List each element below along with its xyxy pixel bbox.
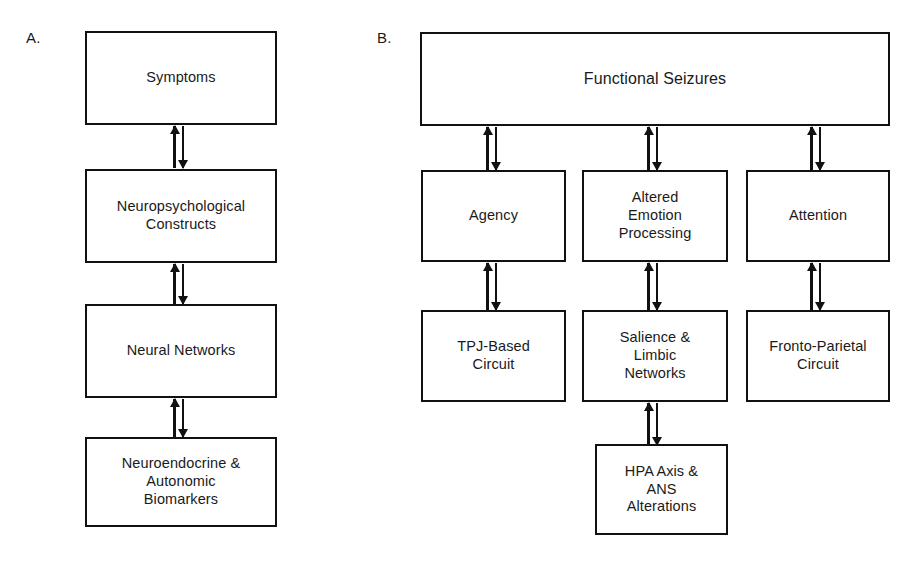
arrow-head-up-icon xyxy=(807,126,817,135)
node-fronto-parietal-circuit[interactable]: Fronto-Parietal Circuit xyxy=(746,310,890,402)
node-attention[interactable]: Attention xyxy=(746,170,890,262)
connector-altered-emotion-processing-salience-limbic-networks xyxy=(646,263,664,310)
arrow-head-down-icon xyxy=(178,160,188,169)
panel-label-b: B. xyxy=(377,30,392,45)
arrow-head-up-icon xyxy=(170,263,180,272)
arrow-head-up-icon xyxy=(483,126,493,135)
node-tpj-based-circuit[interactable]: TPJ-Based Circuit xyxy=(421,310,566,402)
arrow-head-up-icon xyxy=(807,262,817,271)
connector-neural-networks-neuroendocrine-autonomic-biomarkers xyxy=(172,399,190,437)
node-symptoms[interactable]: Symptoms xyxy=(85,31,277,125)
node-neural-networks[interactable]: Neural Networks xyxy=(85,304,277,398)
connector-symptoms-neuropsychological-constructs xyxy=(172,126,190,168)
panel-label-a: A. xyxy=(26,30,41,45)
connector-functional-seizures-agency xyxy=(485,127,503,170)
node-neuropsychological-constructs[interactable]: Neuropsychological Constructs xyxy=(85,169,277,263)
arrow-head-up-icon xyxy=(644,402,654,411)
node-altered-emotion-processing[interactable]: Altered Emotion Processing xyxy=(582,170,728,262)
connector-functional-seizures-attention xyxy=(809,127,827,170)
arrow-head-up-icon xyxy=(644,262,654,271)
arrow-head-up-icon xyxy=(170,125,180,134)
connector-neuropsychological-constructs-neural-networks xyxy=(172,264,190,304)
node-agency[interactable]: Agency xyxy=(421,170,566,262)
connector-attention-fronto-parietal-circuit xyxy=(809,263,827,310)
connector-functional-seizures-altered-emotion-processing xyxy=(646,127,664,170)
figure-canvas: A. Symptoms Neuropsychological Construct… xyxy=(0,0,917,564)
arrow-head-up-icon xyxy=(483,262,493,271)
node-salience-limbic-networks[interactable]: Salience & Limbic Networks xyxy=(582,310,728,402)
node-hpa-axis-ans-alterations[interactable]: HPA Axis & ANS Alterations xyxy=(595,444,728,535)
connector-agency-tpj-based-circuit xyxy=(485,263,503,310)
arrow-head-up-icon xyxy=(170,398,180,407)
node-neuroendocrine-autonomic-biomarkers[interactable]: Neuroendocrine & Autonomic Biomarkers xyxy=(85,437,277,527)
node-functional-seizures[interactable]: Functional Seizures xyxy=(420,32,890,126)
connector-salience-limbic-networks-hpa-axis-ans-alterations xyxy=(646,403,664,445)
arrow-head-up-icon xyxy=(644,126,654,135)
